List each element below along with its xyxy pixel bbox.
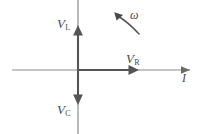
vl-phasor-arrowhead <box>73 25 83 36</box>
current-label: I <box>182 72 186 84</box>
phasor-diagram-svg <box>0 0 202 134</box>
vr-label: VR <box>126 50 140 67</box>
vl-symbol: V <box>57 16 65 31</box>
vl-subscript: L <box>65 23 70 32</box>
vr-symbol: V <box>126 51 134 66</box>
vr-subscript: R <box>134 58 139 67</box>
vc-symbol: V <box>57 102 65 117</box>
vc-phasor-arrowhead <box>73 95 83 106</box>
vc-label: VC <box>57 101 71 118</box>
vc-subscript: C <box>65 109 70 118</box>
omega-label: ω <box>130 9 138 21</box>
phasor-diagram-figure: VL VC VR ω I <box>0 0 202 134</box>
vl-label: VL <box>57 15 70 32</box>
